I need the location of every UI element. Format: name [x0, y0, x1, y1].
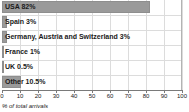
bar-value-label: Spain 3%	[5, 17, 36, 27]
plot-area: USA 82%Spain 3%Germany, Austria and Swit…	[2, 0, 182, 90]
bar-value-label: USA 82%	[5, 2, 35, 12]
bar-row: France 1%	[2, 45, 181, 60]
bar-chart: USA 82%Spain 3%Germany, Austria and Swit…	[0, 0, 189, 112]
x-axis-tick-label: 80	[143, 93, 150, 100]
x-axis-tick-label: 90	[161, 93, 168, 100]
x-axis-tick-label: 10	[17, 93, 24, 100]
x-axis-tick-label: 0	[0, 93, 3, 100]
x-axis-tick-label: 30	[53, 93, 60, 100]
x-axis-tick-label: 60	[107, 93, 114, 100]
bar-row: UK 0.5%	[2, 60, 181, 75]
bar-row: USA 82%	[2, 0, 181, 15]
gridline-vertical	[182, 0, 183, 90]
bar-row: Spain 3%	[2, 15, 181, 30]
x-axis-tick-label: 20	[35, 93, 42, 100]
bar-value-label: France 1%	[5, 47, 40, 57]
bar-value-label: Germany, Austria and Switzerland 3%	[5, 32, 130, 42]
x-axis-tick-label: 70	[125, 93, 132, 100]
bar-row: Germany, Austria and Switzerland 3%	[2, 30, 181, 45]
bar-value-label: Other 10.5%	[5, 77, 45, 87]
x-axis-tick-label: 50	[89, 93, 96, 100]
x-axis-title: % of total arrivals	[2, 102, 48, 110]
x-axis-tick-label: 100	[177, 93, 187, 100]
x-axis-tick-label: 40	[71, 93, 78, 100]
bar	[2, 46, 4, 58]
bar-value-label: UK 0.5%	[5, 62, 33, 72]
bar-row: Other 10.5%	[2, 75, 181, 90]
bar	[2, 61, 4, 73]
